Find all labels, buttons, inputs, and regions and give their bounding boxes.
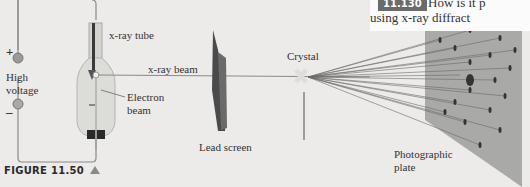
triangle-icon [90,166,100,174]
plus-sign: + [6,46,13,58]
photographic-plate-label-1: Photographic [394,148,453,160]
crystal-shape [296,70,306,140]
electron-beam-label-2: beam [127,104,151,116]
high-voltage-label-1: High [6,71,28,83]
crystal-label: Crystal [287,50,319,62]
minus-sign: – [6,106,13,118]
negative-terminal [13,99,23,109]
photographic-plate-shape [425,10,522,187]
xray-beam-label: x-ray beam [148,63,198,75]
lead-screen-label: Lead screen [199,141,252,153]
figure-caption: FIGURE 11.50 [4,165,84,176]
electron-beam-label-1: Electron [127,91,164,103]
positive-terminal [13,53,23,63]
question-text-line1: How is it p [428,0,485,9]
xray-tube-label: x-ray tube [109,29,154,41]
question-text-line2: using x-ray diffract [370,12,470,24]
high-voltage-label-2: voltage [6,84,38,96]
xray-tube [77,23,115,150]
photographic-plate-label-2: plate [394,161,415,173]
